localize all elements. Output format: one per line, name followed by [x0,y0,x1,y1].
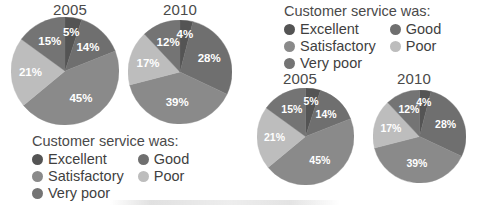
legend-item-label: Excellent [300,22,359,37]
legend-item-satisfactory[interactable]: Satisfactory [284,39,376,54]
pie-chart-2010-right[interactable]: 4%28%39%17%12% [373,90,466,183]
legend-item-label: Poor [154,169,185,184]
pie-chart-2005-right[interactable]: 5%14%45%21%15% [257,88,354,185]
legend-items-grid: ExcellentGoodSatisfactoryPoorVery poor [284,21,441,72]
pie-title-2010-right: 2010 [382,70,446,87]
legend-swatch-icon [284,24,295,35]
legend-item-label: Good [154,152,189,167]
pie-slice-label-poor: 21% [19,66,42,78]
legend-swatch-icon [390,41,401,52]
legend-item-good[interactable]: Good [138,152,189,167]
pie-slice-label-excellent: 5% [304,95,320,107]
legend-swatch-icon [32,171,43,182]
pie-slice-label-good: 28% [435,118,457,130]
legend-swatch-icon [390,24,401,35]
pie-slice-label-very-poor: 12% [157,36,180,48]
pie-slice-label-poor: 21% [264,131,286,143]
pie-slice-label-good: 14% [316,108,338,120]
legend-item-label: Poor [406,39,437,54]
pie-slice-label-satisfactory: 39% [166,96,189,108]
legend-swatch-icon [32,188,43,199]
legend-item-label: Excellent [48,152,107,167]
legend-title: Customer service was: [32,133,189,149]
pie-slice-label-very-poor: 12% [398,103,420,115]
legend-items-grid: ExcellentGoodSatisfactoryPoorVery poor [32,151,189,202]
legend-item-label: Satisfactory [48,169,124,184]
pie-title-2010-left: 2010 [148,1,212,18]
legend-item-very-poor[interactable]: Very poor [284,56,376,71]
legend-item-good[interactable]: Good [390,22,441,37]
legend-swatch-icon [138,171,149,182]
legend-swatch-icon [32,154,43,165]
pie-chart-2010-left[interactable]: 4%28%39%17%12% [128,20,232,124]
panel-legend-above: Customer service was: ExcellentGoodSatis… [242,0,484,207]
pie-title-2005-left: 2005 [38,1,102,18]
pie-title-2005-right: 2005 [268,70,332,87]
legend-item-very-poor[interactable]: Very poor [32,186,124,201]
legend-right: Customer service was: ExcellentGoodSatis… [284,3,441,72]
legend-item-label: Satisfactory [300,39,376,54]
legend-item-excellent[interactable]: Excellent [32,152,124,167]
legend-left: Customer service was: ExcellentGoodSatis… [32,133,189,202]
legend-item-excellent[interactable]: Excellent [284,22,376,37]
figure-canvas: 2005 2010 5%14%45%21%15% 4%28%39%17%12% … [0,0,484,207]
pie-slice-label-good: 14% [76,41,99,53]
pie-slice-label-satisfactory: 45% [309,154,331,166]
panel-legend-below: 2005 2010 5%14%45%21%15% 4%28%39%17%12% … [0,0,242,207]
pie-chart-2005-left[interactable]: 5%14%45%21%15% [11,17,119,125]
legend-swatch-icon [138,154,149,165]
legend-swatch-icon [284,58,295,69]
legend-item-poor[interactable]: Poor [390,39,441,54]
legend-item-label: Good [406,22,441,37]
pie-slice-label-very-poor: 15% [281,103,303,115]
legend-title: Customer service was: [284,3,441,19]
legend-item-poor[interactable]: Poor [138,169,189,184]
legend-item-label: Very poor [48,186,110,201]
pie-slice-label-poor: 17% [137,57,160,69]
pie-slice-label-excellent: 5% [63,26,80,38]
pie-slice-label-poor: 17% [380,122,402,134]
legend-swatch-icon [284,41,295,52]
pie-slice-label-satisfactory: 45% [69,92,92,104]
pie-slice-label-satisfactory: 39% [406,157,428,169]
pie-slice-label-good: 28% [198,52,221,64]
legend-item-label: Very poor [300,56,362,71]
pie-slice-label-very-poor: 15% [38,35,61,47]
legend-item-satisfactory[interactable]: Satisfactory [32,169,124,184]
scan-artifact [110,200,340,205]
